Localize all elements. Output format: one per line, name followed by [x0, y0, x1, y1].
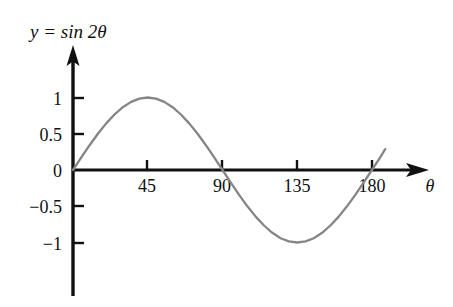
y-tick-label-0: 0 [53, 161, 62, 181]
y-tick-label-0.5: 0.5 [40, 125, 63, 145]
x-tick-label-135: 135 [284, 176, 311, 196]
x-axis-variable-label: θ [426, 176, 435, 196]
figure-container: y = sin 2θ 1 0.5 0 −0.5 −1 [0, 0, 453, 307]
x-tick-label-45: 45 [138, 176, 156, 196]
y-tick-label-1: 1 [53, 89, 62, 109]
y-tick-label-minus-0.5: −0.5 [29, 197, 62, 217]
sine-curve-chart: y = sin 2θ 1 0.5 0 −0.5 −1 [0, 0, 453, 307]
chart-background [0, 0, 453, 307]
function-title-label: y = sin 2θ [28, 21, 107, 42]
y-tick-label-minus-1: −1 [43, 234, 62, 254]
